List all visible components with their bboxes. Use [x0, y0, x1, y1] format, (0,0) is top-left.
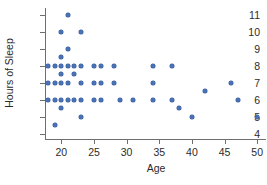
x-axis-title-text: Age [147, 162, 166, 174]
data-point [66, 98, 70, 102]
data-point [190, 115, 194, 119]
data-point [99, 64, 103, 68]
data-point [66, 81, 70, 85]
data-point [92, 64, 96, 68]
x-tick-label: 50 [244, 147, 267, 158]
x-tick-label: 25 [81, 147, 107, 158]
data-point [79, 81, 83, 85]
x-tick-label: 35 [146, 147, 172, 158]
data-point [79, 30, 83, 34]
x-tick-mark [225, 139, 226, 144]
data-point [99, 98, 103, 102]
data-point [99, 81, 103, 85]
data-point [229, 81, 233, 85]
data-point [92, 98, 96, 102]
scatter-plot-figure: Hours of Sleep 4567891011 20253035404550… [0, 0, 267, 185]
data-point [131, 98, 135, 102]
data-point [53, 81, 57, 85]
data-point [79, 64, 83, 68]
data-point [53, 64, 57, 68]
x-tick-label: 30 [114, 147, 140, 158]
data-point [151, 64, 155, 68]
data-point [66, 13, 70, 17]
x-tick-mark [192, 139, 193, 144]
x-axis-title: Age [45, 162, 267, 174]
x-tick-mark [127, 139, 128, 144]
data-point [66, 64, 70, 68]
x-tick-mark [61, 139, 62, 144]
data-point [236, 98, 240, 102]
x-tick-mark [159, 139, 160, 144]
plot-area [45, 8, 267, 138]
y-axis-title-text: Hours of Sleep [3, 38, 15, 107]
x-tick-label: 40 [179, 147, 205, 158]
data-point [66, 47, 70, 51]
data-point [79, 115, 83, 119]
x-tick-mark [257, 139, 258, 144]
data-point [53, 98, 57, 102]
data-point [79, 98, 83, 102]
data-point [151, 98, 155, 102]
data-point [112, 81, 116, 85]
x-tick-label: 20 [48, 147, 74, 158]
data-point [112, 64, 116, 68]
y-axis-title: Hours of Sleep [0, 0, 18, 145]
data-point [151, 81, 155, 85]
x-tick-mark [94, 139, 95, 144]
data-point [92, 81, 96, 85]
data-point [118, 98, 122, 102]
x-tick-label: 45 [212, 147, 238, 158]
